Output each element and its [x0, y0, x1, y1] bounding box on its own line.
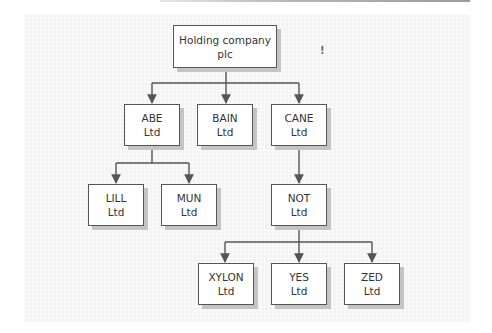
- node-label: ZED: [361, 270, 383, 284]
- node-holding-company: Holding company plc: [173, 25, 277, 68]
- node-sublabel: Ltd: [108, 205, 125, 219]
- node-bain: BAIN Ltd: [197, 104, 253, 146]
- node-label: XYLON: [208, 270, 243, 284]
- node-label: YES: [289, 270, 309, 284]
- node-sublabel: Ltd: [181, 205, 198, 219]
- node-sublabel: Ltd: [217, 125, 234, 139]
- node-sublabel: Ltd: [291, 125, 308, 139]
- node-abe: ABE Ltd: [124, 104, 180, 146]
- node-label: MUN: [177, 191, 202, 205]
- node-sublabel: plc: [217, 47, 232, 61]
- node-sublabel: Ltd: [291, 284, 308, 298]
- node-lill: LILL Ltd: [88, 184, 144, 226]
- node-xylon: XYLON Ltd: [198, 263, 254, 305]
- node-mun: MUN Ltd: [161, 184, 217, 226]
- node-label: BAIN: [212, 111, 237, 125]
- node-zed: ZED Ltd: [344, 263, 400, 305]
- node-label: ABE: [141, 111, 162, 125]
- node-sublabel: Ltd: [218, 284, 235, 298]
- node-label: LILL: [106, 191, 127, 205]
- node-label: CANE: [284, 111, 313, 125]
- node-sublabel: Ltd: [144, 125, 161, 139]
- node-sublabel: Ltd: [364, 284, 381, 298]
- node-label: NOT: [288, 191, 311, 205]
- node-not: NOT Ltd: [271, 184, 327, 226]
- node-cane: CANE Ltd: [271, 104, 327, 146]
- node-sublabel: Ltd: [291, 205, 308, 219]
- node-label: Holding company: [179, 33, 271, 47]
- node-yes: YES Ltd: [271, 263, 327, 305]
- annotation-mark: !: [320, 45, 325, 56]
